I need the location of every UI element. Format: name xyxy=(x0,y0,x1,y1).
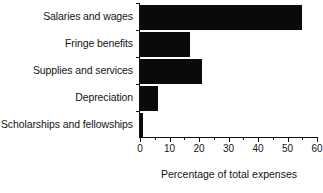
category-label: Scholarships and fellowships xyxy=(1,111,133,138)
x-axis-minor-tick xyxy=(155,138,156,140)
x-axis-major-tick xyxy=(288,138,289,142)
x-axis-tick-label: 30 xyxy=(223,143,234,154)
bar xyxy=(140,113,143,138)
x-axis-minor-tick xyxy=(184,138,185,140)
plot-area xyxy=(140,3,317,137)
x-axis-minor-tick xyxy=(214,138,215,140)
x-axis-tick-label: 40 xyxy=(252,143,263,154)
category-label: Depreciation xyxy=(75,84,133,111)
y-axis-tick xyxy=(136,84,139,85)
bar xyxy=(140,5,302,30)
x-axis-major-tick xyxy=(140,138,141,142)
x-axis-tick-label: 0 xyxy=(137,143,143,154)
x-axis-minor-tick xyxy=(302,138,303,140)
x-axis-tick-label: 60 xyxy=(311,143,322,154)
bar xyxy=(140,86,158,111)
y-axis-tick xyxy=(136,30,139,31)
category-label: Fringe benefits xyxy=(65,30,133,57)
bar-row xyxy=(140,84,317,111)
y-axis-tick xyxy=(136,111,139,112)
x-axis-major-tick xyxy=(258,138,259,142)
category-axis-labels: Salaries and wagesFringe benefitsSupplie… xyxy=(0,0,137,138)
x-axis-tick-label: 50 xyxy=(282,143,293,154)
bar-row xyxy=(140,111,317,138)
x-axis-major-tick xyxy=(170,138,171,142)
x-axis-tick-label: 20 xyxy=(193,143,204,154)
bar-row xyxy=(140,57,317,84)
y-axis-tick xyxy=(136,3,139,4)
bar-row xyxy=(140,3,317,30)
y-axis-line xyxy=(139,3,140,138)
category-label: Salaries and wages xyxy=(43,3,133,30)
category-label: Supplies and services xyxy=(33,57,133,84)
bar-row xyxy=(140,30,317,57)
x-axis-title: Percentage of total expenses xyxy=(140,168,318,180)
x-axis-minor-tick xyxy=(273,138,274,140)
x-axis-minor-tick xyxy=(243,138,244,140)
x-axis-major-tick xyxy=(317,138,318,142)
bar xyxy=(140,32,190,57)
bar xyxy=(140,59,202,84)
x-axis-major-tick xyxy=(199,138,200,142)
x-axis-major-tick xyxy=(229,138,230,142)
y-axis-tick xyxy=(136,57,139,58)
x-axis-tick-label: 10 xyxy=(164,143,175,154)
